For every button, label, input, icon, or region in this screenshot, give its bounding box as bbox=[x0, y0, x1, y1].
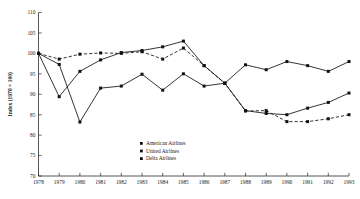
y-tick-label: 70 bbox=[30, 173, 36, 179]
legend-label: United Airlines bbox=[146, 148, 179, 154]
x-tick-labels: 1978197919801981198219831984198519861987… bbox=[33, 179, 355, 185]
data-point bbox=[285, 120, 288, 123]
data-point bbox=[306, 120, 309, 123]
data-point bbox=[285, 60, 288, 63]
x-tick-label: 1992 bbox=[323, 179, 334, 185]
line-chart: 707580859095100105110 197819791980198119… bbox=[0, 0, 360, 199]
x-tick-label: 1982 bbox=[116, 179, 127, 185]
x-tick-label: 1984 bbox=[157, 179, 168, 185]
x-tick-label: 1978 bbox=[33, 179, 44, 185]
data-point bbox=[99, 87, 102, 90]
x-tick-label: 1986 bbox=[199, 179, 210, 185]
y-axis-title: Index (1978 = 100) bbox=[7, 72, 14, 117]
data-point bbox=[203, 85, 206, 88]
y-tick-label: 100 bbox=[27, 50, 35, 56]
data-point bbox=[203, 64, 206, 67]
data-point bbox=[58, 63, 61, 66]
axis-lines bbox=[39, 13, 350, 177]
data-point bbox=[306, 64, 309, 67]
y-tick-label: 85 bbox=[30, 112, 36, 118]
data-point bbox=[78, 70, 81, 73]
axes bbox=[39, 13, 350, 177]
y-tick-label: 90 bbox=[30, 91, 36, 97]
legend-marker bbox=[140, 142, 143, 145]
x-tick-label: 1979 bbox=[54, 179, 65, 185]
data-point bbox=[78, 121, 81, 124]
data-point bbox=[120, 85, 123, 88]
data-point bbox=[161, 58, 164, 61]
legend-marker bbox=[140, 150, 143, 153]
data-point bbox=[348, 113, 351, 116]
data-point bbox=[244, 63, 247, 66]
series-line bbox=[39, 48, 350, 122]
data-point bbox=[306, 107, 309, 110]
data-point bbox=[78, 53, 81, 56]
data-point bbox=[348, 60, 351, 63]
x-tick-label: 1991 bbox=[302, 179, 313, 185]
data-point bbox=[182, 72, 185, 75]
series-line bbox=[39, 41, 350, 97]
data-point bbox=[120, 52, 123, 55]
y-tick-labels: 707580859095100105110 bbox=[27, 9, 35, 179]
data-point bbox=[265, 112, 268, 115]
data-point bbox=[327, 70, 330, 73]
data-point bbox=[161, 45, 164, 48]
data-point bbox=[37, 52, 40, 55]
x-tick-label: 1987 bbox=[219, 179, 230, 185]
data-point bbox=[182, 47, 185, 50]
data-point bbox=[161, 89, 164, 92]
y-tick-label: 110 bbox=[28, 9, 36, 15]
data-point bbox=[99, 51, 102, 54]
x-tick-label: 1985 bbox=[178, 179, 189, 185]
x-tick-label: 1989 bbox=[261, 179, 272, 185]
legend-marker bbox=[140, 157, 143, 160]
series-2 bbox=[37, 52, 351, 124]
data-point bbox=[348, 92, 351, 95]
data-point bbox=[141, 73, 144, 76]
data-point bbox=[141, 50, 144, 53]
data-point bbox=[244, 110, 247, 113]
data-point bbox=[285, 113, 288, 116]
data-point bbox=[58, 58, 61, 61]
data-point bbox=[327, 101, 330, 104]
data-point bbox=[58, 95, 61, 98]
y-tick-label: 95 bbox=[30, 71, 36, 77]
data-point bbox=[223, 82, 226, 85]
series-line bbox=[39, 53, 350, 122]
y-tick-label: 80 bbox=[30, 132, 36, 138]
data-series bbox=[37, 40, 351, 124]
series-1 bbox=[37, 40, 351, 99]
x-tick-label: 1990 bbox=[282, 179, 293, 185]
data-point bbox=[327, 117, 330, 120]
y-tick-label: 105 bbox=[27, 30, 35, 36]
chart-legend: American AirlinesUnited AirlinesDelta Ai… bbox=[140, 140, 186, 161]
legend-label: American Airlines bbox=[146, 140, 186, 146]
data-point bbox=[99, 58, 102, 61]
chart-figure: 707580859095100105110 197819791980198119… bbox=[0, 0, 360, 199]
x-tick-label: 1993 bbox=[344, 179, 355, 185]
data-point bbox=[265, 68, 268, 71]
x-tick-label: 1988 bbox=[240, 179, 251, 185]
series-3 bbox=[37, 47, 351, 124]
data-point bbox=[182, 40, 185, 43]
x-tick-label: 1983 bbox=[137, 179, 148, 185]
y-axis-title-text: Index (1978 = 100) bbox=[7, 72, 14, 117]
x-tick-label: 1980 bbox=[75, 179, 86, 185]
data-point bbox=[265, 109, 268, 112]
y-tick-label: 75 bbox=[30, 152, 36, 158]
x-tick-label: 1981 bbox=[95, 179, 106, 185]
legend-label: Delta Airlines bbox=[146, 155, 176, 161]
